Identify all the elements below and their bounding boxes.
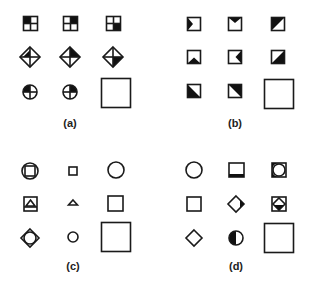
triangle-in-square-icon	[24, 197, 37, 211]
diamond-quadrants-topleft-filled-icon	[20, 47, 40, 67]
square-right-triangle-filled-icon	[229, 51, 242, 64]
circle-quadrants-topright-filled-icon	[63, 85, 77, 99]
square-top-triangle-filled-icon	[229, 18, 242, 31]
circle-icon	[186, 162, 202, 178]
answer-box-d[interactable]	[265, 224, 294, 253]
square-quadrants-topright-filled-icon	[64, 17, 78, 31]
circle-in-square-left-filled-icon	[272, 163, 286, 177]
small-square-icon	[69, 167, 77, 175]
square-quadrants-bottomright-filled-icon	[107, 17, 121, 31]
square-in-circle-icon	[22, 163, 38, 179]
diamond-quadrants-topright-filled-icon	[60, 47, 80, 67]
square-diagonal-bottomleft-filled-icon	[188, 85, 201, 98]
panel-label-c: (c)	[66, 260, 79, 272]
panel-label-a: (a)	[63, 117, 76, 129]
square-bottom-band-filled-icon	[229, 163, 244, 177]
square-left-triangle-filled-icon	[188, 18, 201, 31]
panel-c	[21, 162, 131, 252]
square-icon	[108, 196, 123, 211]
circle-quadrants-topleft-filled-icon	[23, 85, 37, 99]
square-icon	[187, 197, 201, 211]
circle-in-diamond-icon	[21, 229, 39, 247]
square-diagonal-bottomright-filled-icon	[272, 51, 285, 64]
small-circle-icon	[68, 232, 78, 242]
diamond-icon	[186, 230, 202, 246]
small-triangle-icon	[69, 200, 78, 205]
diamond-in-square-bottom-filled-icon	[272, 197, 286, 211]
square-diagonal-topleft-filled-icon	[272, 18, 285, 31]
panel-a	[20, 17, 131, 108]
square-quadrants-topleft-filled-icon	[24, 17, 38, 31]
square-bottom-triangle-filled-icon	[188, 51, 201, 64]
square-diagonal-topright-filled-icon	[229, 85, 242, 98]
puzzle-figure	[0, 0, 312, 291]
circle-icon	[108, 162, 124, 178]
diamond-right-filled-icon	[228, 196, 244, 212]
answer-box-a[interactable]	[102, 79, 131, 108]
panel-d	[186, 162, 294, 253]
panel-label-d: (d)	[229, 260, 243, 272]
circle-left-half-filled-icon	[229, 231, 243, 245]
panel-b	[188, 18, 294, 109]
answer-box-c[interactable]	[102, 223, 131, 252]
diamond-quadrants-bottomright-filled-icon	[103, 47, 123, 67]
panel-label-b: (b)	[228, 117, 242, 129]
answer-box-b[interactable]	[265, 80, 294, 109]
